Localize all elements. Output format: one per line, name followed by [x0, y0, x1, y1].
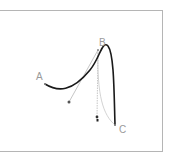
anchor-point-a[interactable] [44, 83, 46, 85]
label-a: A [36, 71, 43, 82]
label-c: C [119, 124, 126, 135]
control-point-2-marker [97, 119, 99, 122]
bezier-diagram: A B C [0, 0, 169, 159]
label-b: B [99, 37, 106, 48]
anchor-point-c[interactable] [114, 124, 116, 126]
bezier-curve [45, 45, 115, 125]
handle-line-1 [69, 50, 98, 102]
control-point-1[interactable] [68, 101, 71, 104]
anchor-point-b[interactable] [97, 49, 99, 51]
control-point-2[interactable] [96, 116, 99, 119]
